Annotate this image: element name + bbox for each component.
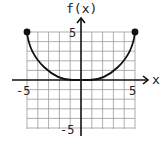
x-max-tick-label: 5 [129,84,136,98]
right-endpoint-dot [132,29,139,36]
y-min-tick-label: -5 [60,123,74,137]
function-graph: f(x) x 5 -5 -5 5 [0,0,167,143]
x-min-tick-label: -5 [16,84,30,98]
y-axis-label: f(x) [66,1,97,16]
left-endpoint-dot [24,29,31,36]
x-axis-label: x [152,72,160,87]
y-max-tick-label: 5 [69,26,76,40]
